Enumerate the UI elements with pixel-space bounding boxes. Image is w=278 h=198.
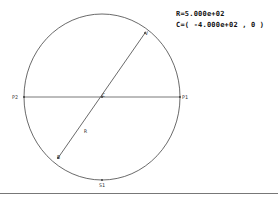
- geometry-canvas: [0, 0, 278, 198]
- label-v: V: [145, 30, 148, 36]
- center-readout: C=( -4.000e+02 , 0 ): [176, 21, 264, 29]
- point-s1-marker: [101, 179, 103, 181]
- point-p1-marker: [179, 96, 181, 98]
- label-c: C: [102, 92, 105, 98]
- point-p2-marker: [23, 96, 25, 98]
- label-s1: S1: [99, 182, 105, 188]
- radius-readout: R=5.000e+02: [176, 10, 225, 18]
- label-b: B: [57, 154, 60, 160]
- label-p1: P1: [182, 94, 188, 100]
- label-p2: P2: [12, 94, 18, 100]
- label-r: R: [84, 128, 87, 134]
